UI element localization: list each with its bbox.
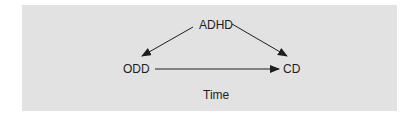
node-odd: ODD bbox=[123, 63, 150, 75]
time-label: Time bbox=[203, 89, 229, 101]
node-cd: CD bbox=[283, 63, 300, 75]
arrow-adhd-to-odd bbox=[142, 27, 193, 56]
arrow-adhd-to-cd bbox=[232, 24, 287, 56]
node-adhd: ADHD bbox=[199, 19, 233, 31]
